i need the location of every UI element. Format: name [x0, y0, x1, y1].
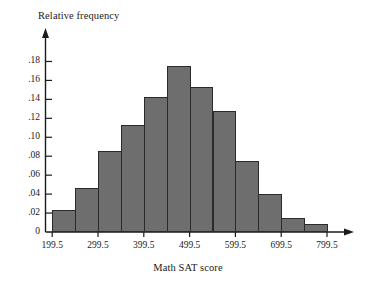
x-tick-label: 499.5	[167, 241, 213, 251]
x-tick-label: 599.5	[212, 241, 258, 251]
histogram-bar	[121, 125, 145, 232]
x-axis-arrow	[344, 229, 354, 236]
x-tick-label: 399.5	[121, 241, 167, 251]
y-tick-label: .14	[14, 94, 40, 104]
plot-area: 0.02.04.06.08.10.12.14.16.18 199.5299.53…	[0, 0, 376, 292]
histogram-bar	[190, 87, 214, 232]
y-tick-label: .08	[14, 151, 40, 161]
y-tick-label: .06	[14, 170, 40, 180]
x-tick-marks	[52, 232, 327, 237]
histogram-bar	[235, 161, 259, 232]
y-tick-label: .18	[14, 56, 40, 66]
y-tick-label: 0	[14, 227, 40, 237]
histogram-bar	[213, 111, 237, 232]
y-tick-label: .16	[14, 75, 40, 85]
x-tick-label: 699.5	[258, 241, 304, 251]
y-tick-label: .10	[14, 132, 40, 142]
histogram-bar	[281, 218, 305, 232]
histogram-bar	[304, 224, 328, 232]
histogram-figure: Relative frequency 0.02.04.06.08.10.12.1…	[0, 0, 376, 292]
x-axis-title: Math SAT score	[0, 262, 376, 273]
x-tick-label: 799.5	[304, 241, 350, 251]
histogram-bar	[75, 188, 99, 232]
x-tick-label: 199.5	[29, 241, 75, 251]
y-axis-arrow	[42, 28, 49, 38]
x-tick-label: 299.5	[75, 241, 121, 251]
y-tick-marks	[46, 61, 53, 213]
y-tick-label: .02	[14, 208, 40, 218]
histogram-bar	[167, 66, 191, 232]
y-tick-label: .12	[14, 113, 40, 123]
histogram-bar	[144, 97, 168, 232]
histogram-bar	[52, 210, 76, 232]
y-tick-label: .04	[14, 189, 40, 199]
histogram-bar	[98, 151, 122, 232]
histogram-bar	[258, 194, 282, 232]
